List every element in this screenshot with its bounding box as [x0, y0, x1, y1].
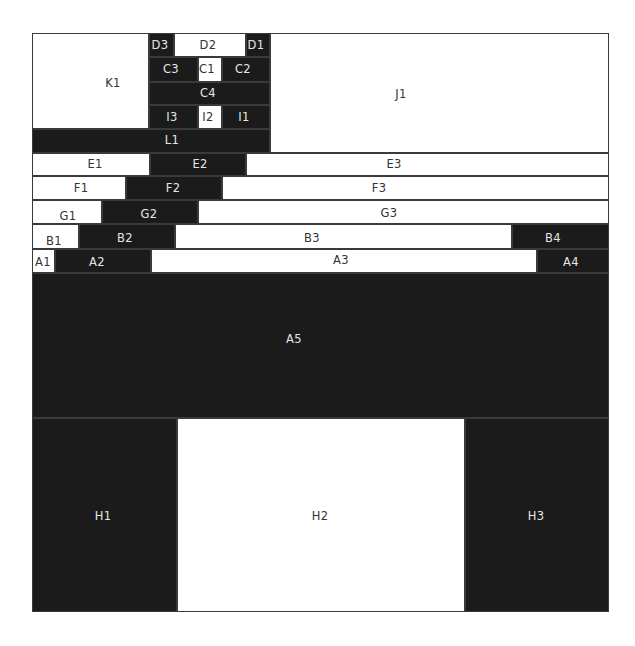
cell-label-j1: J1: [395, 89, 406, 101]
cell-label-g1: G1: [60, 211, 77, 223]
cell-label-b1: B1: [46, 236, 62, 248]
cell-label-b4: B4: [545, 233, 561, 245]
cell-label-b3: B3: [304, 233, 320, 245]
cell-k1: [32, 33, 149, 129]
cell-label-g3: G3: [381, 208, 398, 220]
cell-label-i1: I1: [238, 112, 249, 124]
cell-g3: [198, 200, 609, 224]
cell-label-d1: D1: [248, 40, 265, 52]
cell-label-l1: L1: [165, 135, 179, 147]
cell-label-e1: E1: [87, 159, 102, 171]
cell-label-h1: H1: [95, 511, 112, 523]
cell-e3: [246, 153, 609, 176]
cell-label-h2: H2: [312, 511, 329, 523]
cell-label-f3: F3: [372, 183, 387, 195]
cell-label-a5: A5: [286, 334, 302, 346]
cell-b3: [175, 224, 512, 249]
cell-j1: [270, 33, 609, 153]
cell-label-k1: K1: [105, 78, 120, 90]
cell-f3: [222, 176, 609, 200]
cell-label-c1: C1: [199, 64, 215, 76]
cell-label-a3: A3: [333, 255, 349, 267]
cell-label-f2: F2: [166, 183, 181, 195]
cell-label-a1: A1: [35, 257, 51, 269]
cell-label-e2: E2: [192, 159, 207, 171]
cell-label-d3: D3: [152, 40, 169, 52]
cell-label-f1: F1: [74, 183, 89, 195]
mosaic-diagram: K1D3D2D1C3C1C2C4I3I2I1L1J1E1E2E3F1F2F3G1…: [0, 0, 635, 646]
cell-label-c3: C3: [163, 64, 179, 76]
cell-label-a4: A4: [563, 257, 579, 269]
cell-label-g2: G2: [141, 209, 158, 221]
cell-l1: [32, 129, 270, 153]
cell-label-i2: I2: [202, 112, 213, 124]
cell-label-a2: A2: [89, 257, 105, 269]
cell-label-i3: I3: [166, 112, 177, 124]
cell-label-b2: B2: [117, 233, 133, 245]
cell-label-c4: C4: [200, 88, 216, 100]
cell-label-h3: H3: [528, 511, 545, 523]
cell-label-d2: D2: [200, 40, 217, 52]
cell-a5: [32, 273, 609, 418]
cell-label-c2: C2: [235, 64, 251, 76]
cell-label-e3: E3: [386, 159, 401, 171]
